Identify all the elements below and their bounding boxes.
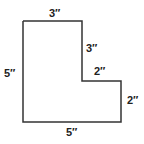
l-shape-diagram: 3″ 5″ 3″ 2″ 2″ 5″	[0, 0, 144, 144]
label-bottom: 5″	[66, 126, 78, 138]
l-shape-outline	[23, 21, 121, 122]
label-top: 3″	[49, 7, 61, 19]
label-inner-horizontal: 2″	[94, 65, 106, 77]
label-left: 5″	[4, 67, 16, 79]
label-right-lower: 2″	[127, 94, 139, 106]
label-right-upper: 3″	[86, 42, 98, 54]
